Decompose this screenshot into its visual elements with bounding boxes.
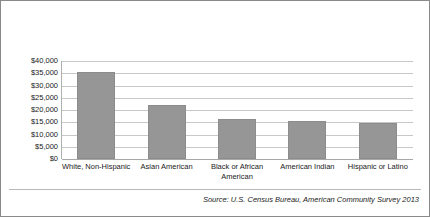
y-tick-label: $5,000 bbox=[1, 143, 58, 151]
bar-slot bbox=[343, 61, 413, 159]
y-axis: $0$5,000$10,000$15,000$20,000$25,000$30,… bbox=[1, 61, 58, 159]
y-tick-label: $10,000 bbox=[1, 131, 58, 139]
bar bbox=[288, 121, 326, 159]
y-tick-label: $0 bbox=[1, 155, 58, 163]
chart-figure: $0$5,000$10,000$15,000$20,000$25,000$30,… bbox=[0, 0, 430, 217]
y-tick-label: $40,000 bbox=[1, 57, 58, 65]
bar-slot bbox=[131, 61, 201, 159]
x-axis: White, Non-HispanicAsian AmericanBlack o… bbox=[61, 162, 413, 181]
bar bbox=[77, 72, 115, 159]
x-tick-label: Hispanic or Latino bbox=[343, 162, 413, 181]
bar-series bbox=[61, 61, 413, 159]
bar-slot bbox=[272, 61, 342, 159]
y-tick-label: $35,000 bbox=[1, 69, 58, 77]
y-tick-label: $30,000 bbox=[1, 82, 58, 90]
x-tick-label: White, Non-Hispanic bbox=[61, 162, 131, 181]
bar bbox=[218, 119, 256, 159]
axis-baseline bbox=[62, 159, 413, 160]
y-tick-label: $25,000 bbox=[1, 94, 58, 102]
bar-slot bbox=[202, 61, 272, 159]
x-tick-label: Black or African American bbox=[202, 162, 272, 181]
y-tick-label: $20,000 bbox=[1, 106, 58, 114]
source-note: Source: U.S. Census Bureau, American Com… bbox=[203, 195, 419, 205]
y-tick-label: $15,000 bbox=[1, 118, 58, 126]
bar-slot bbox=[61, 61, 131, 159]
source-divider bbox=[9, 189, 421, 190]
x-tick-label: Asian American bbox=[131, 162, 201, 181]
bar bbox=[148, 105, 186, 159]
bar bbox=[359, 123, 397, 159]
x-tick-label: American Indian bbox=[272, 162, 342, 181]
